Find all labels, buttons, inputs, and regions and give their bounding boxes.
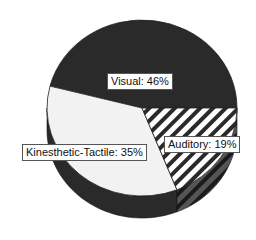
slice-label-auditory: Auditory: 19% <box>164 136 240 153</box>
slice-label-kinesthetic-tactile: Kinesthetic-Tactile: 35% <box>22 144 147 161</box>
pie-top-group <box>47 20 237 196</box>
pie-chart <box>0 0 256 240</box>
slice-label-visual: Visual: 46% <box>107 73 173 90</box>
